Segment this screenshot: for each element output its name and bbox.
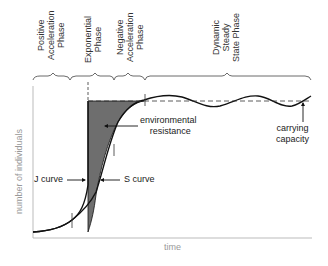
environmental-resistance-region — [88, 101, 144, 232]
j-curve-label: J curve — [34, 174, 63, 185]
label-line: capacity — [276, 134, 309, 145]
phase-label-exponential: Exponential Phase — [83, 16, 103, 63]
bracket-exponential — [70, 73, 114, 80]
arrowhead-icon — [82, 178, 86, 182]
label-line: resistance — [140, 126, 197, 137]
phase-text: Acceleration — [125, 12, 135, 62]
bracket-dynamic-steady-state — [145, 73, 311, 80]
phase-text: Steady — [221, 13, 231, 62]
phase-text: Negative — [115, 12, 125, 62]
phase-text: Exponential — [83, 16, 93, 63]
carrying-capacity-label: carrying capacity — [276, 123, 309, 145]
phase-label-negative-acceleration: Negative Acceleration Phase — [115, 12, 145, 62]
phase-text: State Phase — [231, 13, 241, 62]
phase-text: Acceleration — [46, 10, 56, 60]
y-axis-label: number of individuals — [14, 129, 24, 214]
environmental-resistance-label: environmental resistance — [140, 115, 197, 137]
x-axis-label: time — [164, 242, 181, 252]
phase-label-positive-acceleration: Positive Acceleration Phase — [36, 10, 66, 60]
label-line: carrying — [276, 123, 309, 134]
phase-text: Phase — [56, 10, 66, 60]
phase-text: Dynamic — [211, 13, 221, 62]
bracket-positive-acceleration — [33, 73, 70, 80]
phase-text: Positive — [36, 10, 46, 60]
phase-text: Phase — [135, 12, 145, 62]
phase-label-dynamic-steady-state: Dynamic Steady State Phase — [211, 13, 241, 62]
label-line: environmental — [140, 115, 197, 126]
s-curve-label: S curve — [124, 174, 155, 185]
phase-text: Phase — [93, 16, 103, 63]
bracket-negative-acceleration — [114, 73, 145, 80]
